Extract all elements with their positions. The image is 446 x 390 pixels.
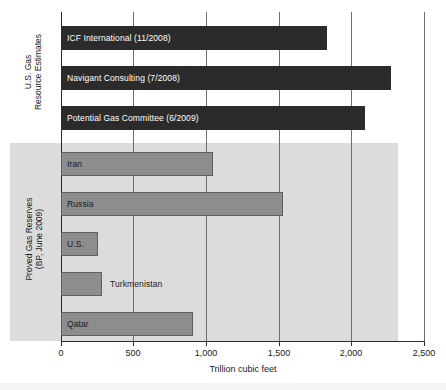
group-label-us-gas-resource-estimates: U.S. Gas Resource Estimates bbox=[23, 17, 43, 127]
gridline-2000 bbox=[351, 12, 352, 341]
x-axis-title: Trillion cubic feet bbox=[61, 364, 425, 374]
bar-label-russia: Russia bbox=[67, 199, 94, 209]
gridline-1000 bbox=[206, 12, 207, 341]
group-label-upper-line2: Resource Estimates bbox=[33, 17, 43, 127]
group-label-proved-gas-reserves: Proved Gas Reserves (BP, June 2009) bbox=[24, 169, 44, 309]
bar-chart: U.S. Gas Resource Estimates Proved Gas R… bbox=[0, 0, 446, 390]
x-tick-label-500: 500 bbox=[125, 348, 140, 358]
x-axis-line bbox=[61, 341, 425, 342]
bar-label-iran: Iran bbox=[67, 159, 82, 169]
x-tick-2000 bbox=[351, 341, 352, 346]
page-edge-artifact bbox=[0, 383, 446, 390]
group-label-upper-line1: U.S. Gas bbox=[23, 55, 33, 89]
x-tick-2500 bbox=[424, 341, 425, 346]
gridline-2500 bbox=[424, 12, 425, 341]
bar-iran[interactable] bbox=[61, 152, 213, 176]
x-tick-label-2500: 2,500 bbox=[413, 348, 436, 358]
bar-label-navigant-consulting: Navigant Consulting (7/2008) bbox=[67, 73, 180, 83]
x-tick-500 bbox=[133, 341, 134, 346]
bar-label-potential-gas-committee: Potential Gas Committee (6/2009) bbox=[67, 113, 199, 123]
bar-turkmenistan[interactable] bbox=[61, 272, 102, 296]
x-tick-label-0: 0 bbox=[58, 348, 63, 358]
bar-label-turkmenistan: Turkmenistan bbox=[110, 279, 162, 289]
x-tick-1000 bbox=[206, 341, 207, 346]
x-tick-0 bbox=[61, 341, 62, 346]
group-label-lower-line1: Proved Gas Reserves bbox=[24, 197, 34, 280]
x-tick-label-2000: 2,000 bbox=[340, 348, 363, 358]
gridline-500 bbox=[133, 12, 134, 341]
group-label-lower-line2: (BP, June 2009) bbox=[34, 169, 44, 309]
bar-label-us: U.S. bbox=[67, 239, 84, 249]
x-tick-1500 bbox=[279, 341, 280, 346]
bar-label-icf-international: ICF International (11/2008) bbox=[67, 33, 171, 43]
bar-label-qatar: Qatar bbox=[67, 319, 89, 329]
x-tick-label-1500: 1,500 bbox=[268, 348, 291, 358]
bar-russia[interactable] bbox=[61, 192, 283, 216]
x-tick-label-1000: 1,000 bbox=[195, 348, 218, 358]
gridline-1500 bbox=[279, 12, 280, 341]
plot-area: ICF International (11/2008) Navigant Con… bbox=[61, 12, 425, 341]
